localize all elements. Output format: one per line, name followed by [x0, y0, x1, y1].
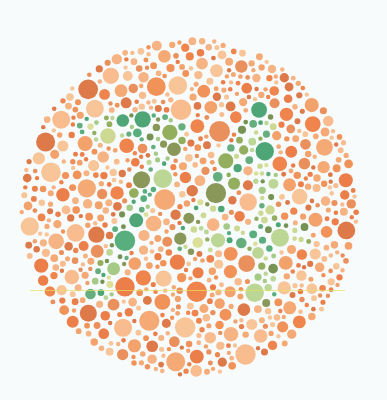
- dot-plate-canvas: [0, 0, 387, 400]
- ishihara-plate: Color vision test plate with dotted figu…: [0, 0, 387, 400]
